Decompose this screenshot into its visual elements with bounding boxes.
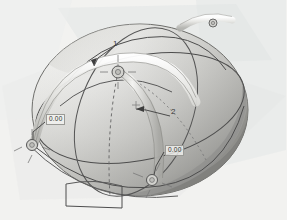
cad-viewport[interactable]: 0.00 0.00 1 2 bbox=[0, 0, 287, 220]
dimension-label-right[interactable]: 0.00 bbox=[165, 145, 184, 156]
callout-label-one[interactable]: 1 bbox=[113, 40, 118, 48]
handle-top-right[interactable] bbox=[209, 19, 217, 27]
viewport-canvas[interactable] bbox=[0, 0, 287, 220]
dimension-label-left[interactable]: 0.00 bbox=[46, 114, 65, 125]
callout-label-two[interactable]: 2 bbox=[171, 108, 176, 116]
